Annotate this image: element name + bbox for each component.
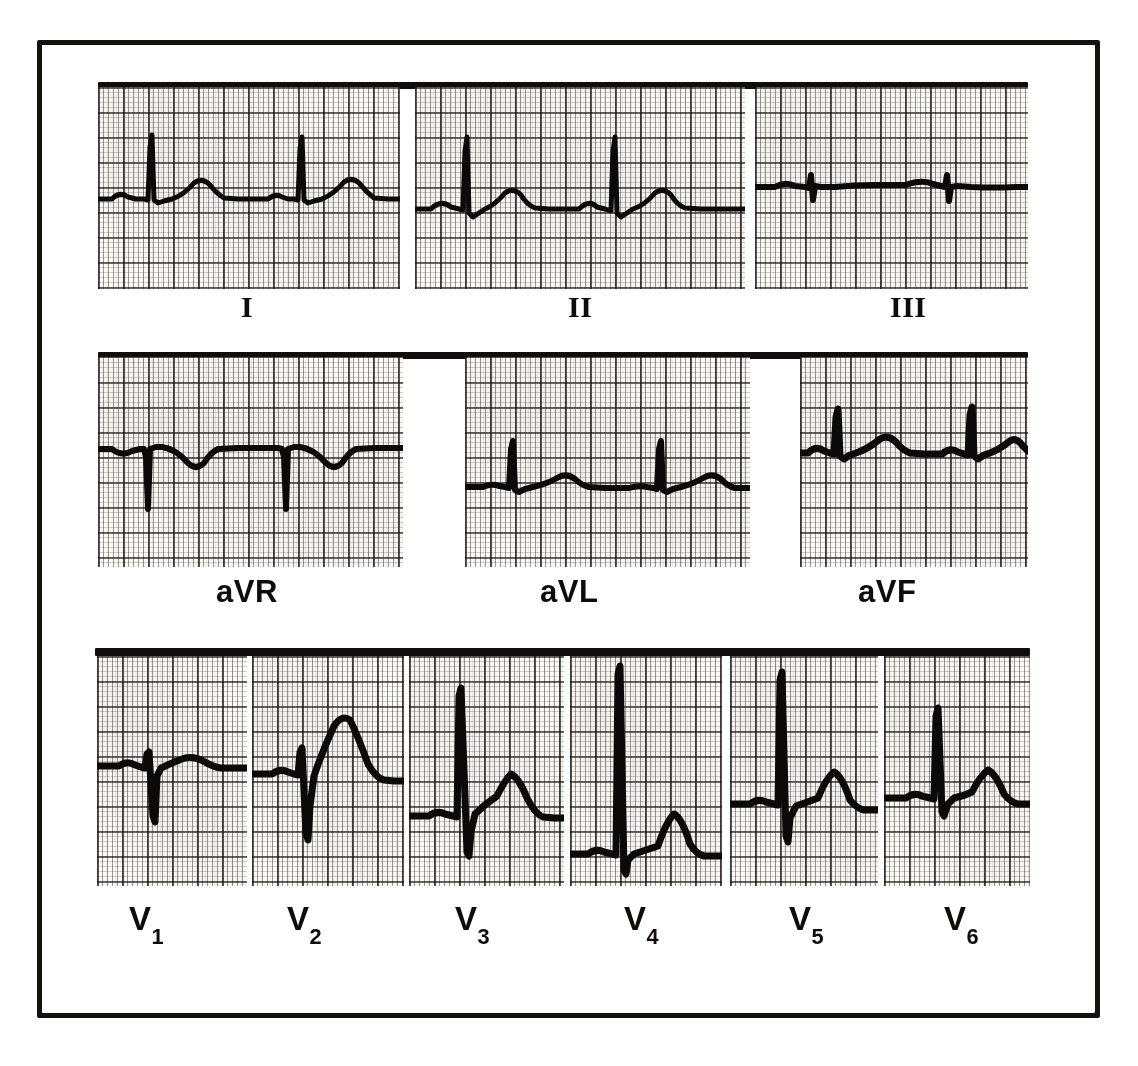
ecg-strip-lead-II[interactable] (415, 87, 745, 289)
lead-label-V4: V4 (624, 900, 659, 944)
lead-label-V6: V6 (944, 900, 979, 944)
ecg-waveform-lead-I (98, 87, 400, 289)
lead-label-aVF: aVF (858, 574, 916, 610)
lead-label-III: III (890, 290, 927, 324)
ecg-waveform-lead-V6 (884, 656, 1030, 886)
lead-label-V4-sub: 4 (647, 924, 660, 949)
ecg-waveform-lead-V5 (730, 656, 878, 886)
lead-label-V2: V2 (287, 900, 322, 944)
lead-label-V3: V3 (455, 900, 490, 944)
lead-label-V5-base: V (789, 900, 812, 937)
ecg-strip-lead-III[interactable] (755, 87, 1028, 289)
ecg-waveform-lead-V2 (252, 656, 404, 886)
lead-label-aVL: aVL (540, 574, 598, 610)
lead-label-V5: V5 (789, 900, 824, 944)
lead-label-V5-sub: 5 (812, 924, 825, 949)
lead-label-V1-base: V (129, 900, 152, 937)
lead-label-V3-base: V (455, 900, 478, 937)
ecg-waveform-lead-III (755, 87, 1028, 289)
ecg-strip-lead-aVR[interactable] (98, 357, 403, 567)
ecg-waveform-lead-II (415, 87, 745, 289)
lead-label-V1: V1 (129, 900, 164, 944)
ecg-strip-lead-V4[interactable] (570, 656, 722, 886)
row-limb-leads: I II III (0, 82, 1138, 322)
ecg-waveform-lead-V1 (97, 656, 247, 886)
row-ink-bar (95, 648, 1030, 656)
ecg-waveform-lead-aVF (800, 357, 1028, 567)
ecg-strip-lead-aVL[interactable] (465, 357, 750, 567)
row-augmented-leads: aVR aVL aVF (0, 352, 1138, 627)
ecg-strip-lead-V3[interactable] (409, 656, 564, 886)
lead-label-V1-sub: 1 (152, 924, 165, 949)
ecg-strip-lead-V1[interactable] (97, 656, 247, 886)
ecg-waveform-lead-V3 (409, 656, 564, 886)
ecg-strip-lead-V2[interactable] (252, 656, 404, 886)
lead-label-II: II (568, 290, 592, 324)
ecg-strip-lead-V6[interactable] (884, 656, 1030, 886)
lead-label-I: I (241, 290, 253, 324)
lead-label-V2-sub: 2 (310, 924, 323, 949)
ecg-waveform-lead-aVR (98, 357, 403, 567)
ecg-waveform-lead-aVL (465, 357, 750, 567)
ecg-page: I II III aVR aVL aVF (0, 0, 1138, 1066)
lead-label-V6-sub: 6 (967, 924, 980, 949)
row-precordial-leads: V1 V2 V3 V4 V5 V6 (0, 648, 1138, 958)
lead-label-V4-base: V (624, 900, 647, 937)
lead-label-V6-base: V (944, 900, 967, 937)
ecg-waveform-lead-V4 (570, 656, 722, 886)
lead-label-aVR: aVR (216, 574, 278, 610)
lead-label-V2-base: V (287, 900, 310, 937)
lead-label-V3-sub: 3 (478, 924, 491, 949)
ecg-strip-lead-V5[interactable] (730, 656, 878, 886)
ecg-strip-lead-aVF[interactable] (800, 357, 1028, 567)
ecg-strip-lead-I[interactable] (98, 87, 400, 289)
